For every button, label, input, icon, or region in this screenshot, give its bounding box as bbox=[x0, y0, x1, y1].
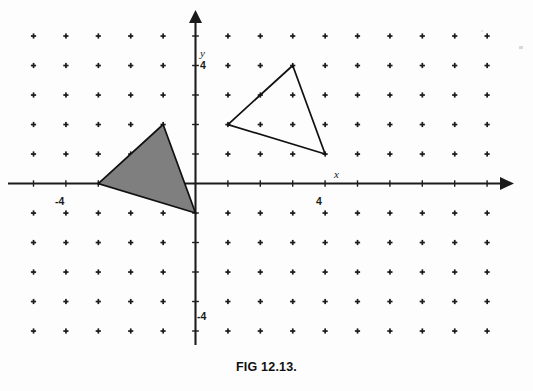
lattice-point bbox=[420, 151, 425, 156]
y-axis-arrowhead bbox=[189, 10, 202, 23]
lattice-point bbox=[387, 328, 392, 333]
lattice-point bbox=[323, 122, 328, 127]
lattice-point bbox=[290, 33, 295, 38]
lattice-point bbox=[225, 63, 230, 68]
lattice-point bbox=[420, 210, 425, 215]
lattice-point bbox=[128, 269, 133, 274]
image-triangle bbox=[228, 66, 325, 155]
lattice-point bbox=[161, 210, 166, 215]
lattice-point bbox=[387, 63, 392, 68]
lattice-point bbox=[96, 63, 101, 68]
lattice-point bbox=[258, 210, 263, 215]
shaded-triangle bbox=[98, 125, 195, 214]
lattice-point bbox=[355, 240, 360, 245]
lattice-point bbox=[452, 240, 457, 245]
lattice-point bbox=[452, 151, 457, 156]
x-axis-arrowhead bbox=[500, 177, 514, 190]
lattice-point bbox=[96, 269, 101, 274]
lattice-point bbox=[161, 240, 166, 245]
lattice-point bbox=[161, 269, 166, 274]
lattice-point bbox=[485, 151, 490, 156]
lattice-point bbox=[31, 92, 36, 97]
lattice-point bbox=[452, 269, 457, 274]
axes-group bbox=[8, 10, 514, 345]
lattice-point bbox=[452, 33, 457, 38]
lattice-point bbox=[355, 33, 360, 38]
lattice-point bbox=[290, 92, 295, 97]
lattice-point bbox=[161, 92, 166, 97]
y-axis-label: y bbox=[199, 47, 205, 59]
lattice-point bbox=[96, 210, 101, 215]
lattice-point bbox=[387, 151, 392, 156]
lattice-point bbox=[128, 240, 133, 245]
lattice-point bbox=[128, 33, 133, 38]
lattice-point bbox=[355, 210, 360, 215]
y-tick-label-4: 4 bbox=[200, 59, 206, 71]
lattice-point bbox=[355, 63, 360, 68]
lattice-point bbox=[258, 33, 263, 38]
lattice-point bbox=[63, 210, 68, 215]
lattice-point bbox=[31, 122, 36, 127]
lattice-point bbox=[31, 240, 36, 245]
lattice-point bbox=[452, 299, 457, 304]
lattice-point bbox=[452, 92, 457, 97]
lattice-point bbox=[355, 122, 360, 127]
lattice-point bbox=[225, 33, 230, 38]
lattice-point bbox=[225, 92, 230, 97]
lattice-point bbox=[323, 63, 328, 68]
lattice-point bbox=[485, 122, 490, 127]
lattice-point bbox=[225, 240, 230, 245]
lattice-point bbox=[63, 122, 68, 127]
lattice-point bbox=[225, 299, 230, 304]
lattice-point bbox=[420, 240, 425, 245]
lattice-point bbox=[63, 151, 68, 156]
lattice-point bbox=[63, 63, 68, 68]
lattice-point bbox=[31, 63, 36, 68]
lattice-point bbox=[485, 33, 490, 38]
lattice-point bbox=[258, 122, 263, 127]
lattice-point bbox=[485, 240, 490, 245]
lattice-point bbox=[63, 299, 68, 304]
lattice-point bbox=[161, 33, 166, 38]
lattice-point bbox=[161, 299, 166, 304]
lattice-point bbox=[128, 92, 133, 97]
lattice-point bbox=[452, 122, 457, 127]
lattice-point bbox=[485, 328, 490, 333]
lattice-point bbox=[485, 210, 490, 215]
lattice-point bbox=[290, 122, 295, 127]
lattice-point bbox=[225, 151, 230, 156]
lattice-point bbox=[290, 210, 295, 215]
lattice-point bbox=[387, 33, 392, 38]
lattice-point bbox=[96, 151, 101, 156]
lattice-point bbox=[225, 210, 230, 215]
lattice-point bbox=[290, 240, 295, 245]
lattice-point bbox=[128, 63, 133, 68]
lattice-point bbox=[355, 151, 360, 156]
lattice-point bbox=[355, 92, 360, 97]
lattice-point bbox=[31, 151, 36, 156]
lattice-point bbox=[420, 63, 425, 68]
lattice-point bbox=[96, 33, 101, 38]
lattice-point bbox=[225, 269, 230, 274]
lattice-point bbox=[323, 210, 328, 215]
lattice-point bbox=[290, 299, 295, 304]
lattice-point bbox=[485, 63, 490, 68]
lattice-point bbox=[258, 328, 263, 333]
lattice-point bbox=[290, 328, 295, 333]
lattice-point bbox=[420, 328, 425, 333]
lattice-point bbox=[355, 269, 360, 274]
lattice-point bbox=[258, 269, 263, 274]
lattice-point bbox=[96, 299, 101, 304]
lattice-point bbox=[420, 269, 425, 274]
lattice-point bbox=[452, 210, 457, 215]
figure-container: y 4 -4 x 4 -4 FIG 12.13. bbox=[0, 0, 533, 391]
x-tick-label-4: 4 bbox=[316, 195, 322, 207]
lattice-point bbox=[31, 33, 36, 38]
lattice-point bbox=[387, 269, 392, 274]
lattice-point bbox=[96, 122, 101, 127]
lattice-point bbox=[452, 328, 457, 333]
lattice-point bbox=[258, 63, 263, 68]
lattice-point bbox=[323, 92, 328, 97]
lattice-point bbox=[387, 240, 392, 245]
lattice-point bbox=[420, 33, 425, 38]
